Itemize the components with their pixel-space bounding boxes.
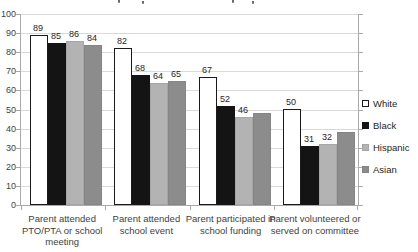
bar-black-group4 [301, 146, 319, 205]
grouped-bar-chart: 0102030405060708090100 Parent attended P… [0, 0, 418, 252]
y-tick-right [358, 71, 363, 72]
legend-item-hispanic: Hispanic [362, 136, 409, 158]
y-axis-label-70: 70 [0, 66, 16, 76]
data-label-hispanic-group3: 46 [228, 105, 258, 115]
bar-black-group2 [132, 75, 150, 205]
plot-area [20, 14, 359, 206]
data-label-asian-group1: 84 [77, 33, 107, 43]
bar-hispanic-group2 [150, 83, 168, 205]
title-letter-descender [232, 0, 234, 3]
y-tick-left [16, 148, 21, 149]
category-label-4: Parent volunteered or served on committe… [269, 213, 361, 236]
bar-asian-group2 [168, 81, 186, 205]
x-tick [21, 205, 22, 210]
legend-item-asian: Asian [362, 158, 409, 180]
bar-black-group1 [48, 43, 66, 205]
title-letter-descender [142, 1, 144, 4]
y-axis-label-60: 60 [0, 85, 16, 95]
bar-asian-group3 [253, 113, 271, 205]
data-label-white-group3: 67 [192, 65, 222, 75]
bar-asian-group1 [84, 45, 102, 205]
y-tick-left [16, 110, 21, 111]
bar-white-group1 [30, 35, 48, 205]
legend-swatch-white [362, 100, 369, 107]
x-tick [357, 205, 358, 210]
legend-item-black: Black [362, 114, 409, 136]
y-axis-label-10: 10 [0, 181, 16, 191]
bar-black-group3 [217, 106, 235, 205]
legend-label-asian: Asian [373, 164, 397, 175]
category-label-3: Parent participated in school funding [185, 213, 277, 236]
legend-label-hispanic: Hispanic [373, 142, 409, 153]
y-tick-left [16, 14, 21, 15]
data-label-black-group3: 52 [210, 94, 240, 104]
y-tick-left [16, 167, 21, 168]
y-tick-left [16, 33, 21, 34]
legend-label-black: Black [373, 120, 396, 131]
y-axis-label-0: 0 [0, 200, 16, 210]
bar-white-group4 [283, 109, 301, 205]
x-tick [105, 205, 106, 210]
y-axis-label-30: 30 [0, 143, 16, 153]
x-tick [190, 205, 191, 210]
y-axis-label-100: 100 [0, 9, 16, 19]
bar-hispanic-group3 [235, 117, 253, 205]
category-label-1: Parent attended PTO/PTA or school meetin… [16, 213, 108, 248]
legend: WhiteBlackHispanicAsian [362, 92, 409, 180]
y-tick-right [358, 52, 363, 53]
legend-swatch-asian [362, 166, 369, 173]
data-label-white-group2: 82 [107, 36, 137, 46]
legend-swatch-black [362, 122, 369, 129]
y-tick-right [358, 205, 363, 206]
y-tick-left [16, 129, 21, 130]
legend-swatch-hispanic [362, 144, 369, 151]
y-tick-right [358, 186, 363, 187]
y-tick-left [16, 90, 21, 91]
legend-label-white: White [373, 98, 397, 109]
y-axis-label-40: 40 [0, 124, 16, 134]
y-tick-right [358, 33, 363, 34]
gridline-100 [21, 14, 358, 15]
title-letter-descender [252, 1, 254, 4]
data-label-white-group4: 50 [276, 97, 306, 107]
y-axis-label-90: 90 [0, 28, 16, 38]
legend-item-white: White [362, 92, 409, 114]
category-label-2: Parent attended school event [100, 213, 192, 236]
bar-hispanic-group4 [319, 144, 337, 205]
y-axis-label-80: 80 [0, 47, 16, 57]
y-tick-right [358, 14, 363, 15]
data-label-asian-group2: 65 [161, 69, 191, 79]
y-tick-left [16, 186, 21, 187]
title-letter-descender [118, 0, 120, 3]
y-tick-left [16, 71, 21, 72]
x-tick [274, 205, 275, 210]
y-axis-label-50: 50 [0, 105, 16, 115]
y-axis-label-20: 20 [0, 162, 16, 172]
y-tick-left [16, 52, 21, 53]
data-label-hispanic-group4: 32 [312, 132, 342, 142]
bar-asian-group4 [337, 132, 355, 205]
bar-hispanic-group1 [66, 41, 84, 205]
